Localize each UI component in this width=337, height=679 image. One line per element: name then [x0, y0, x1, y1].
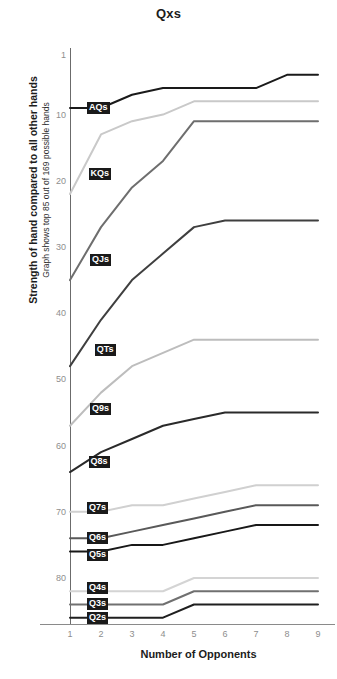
- series-label-q6s: Q6s: [87, 532, 108, 544]
- series-label-q8s: Q8s: [89, 456, 110, 468]
- x-axis-title: Number of Opponents: [60, 648, 337, 660]
- series-label-q4s: Q4s: [87, 582, 108, 594]
- chart-container: Qxs Strength of hand compared to all oth…: [0, 0, 337, 679]
- series-label-qts: QTs: [95, 344, 116, 356]
- series-label-q3s: Q3s: [87, 598, 108, 610]
- series-lines-layer: [0, 0, 337, 679]
- series-label-kqs: KQs: [89, 168, 112, 180]
- series-label-q5s: Q5s: [87, 549, 108, 561]
- series-label-q9s: Q9s: [90, 403, 111, 415]
- series-label-aqs: AQs: [87, 102, 110, 114]
- series-label-q7s: Q7s: [87, 502, 108, 514]
- series-label-qjs: QJs: [90, 254, 111, 266]
- series-label-q2s: Q2s: [87, 612, 108, 624]
